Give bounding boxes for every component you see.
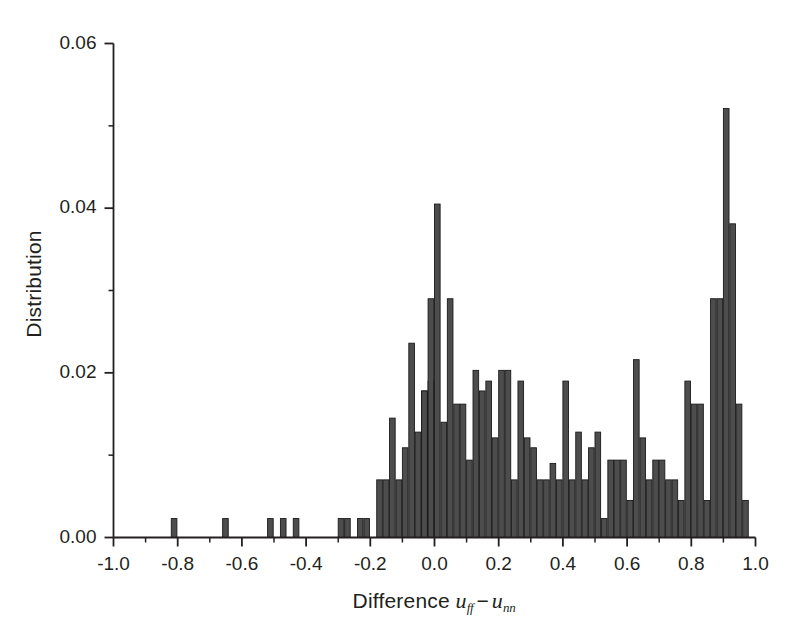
histogram-bar [396, 480, 402, 538]
x-axis-tick-label: 0.4 [528, 553, 598, 575]
histogram-bar [601, 519, 607, 538]
histogram-bar [428, 299, 434, 538]
histogram-bar [415, 432, 421, 537]
y-axis-tick-label: 0.04 [27, 196, 97, 218]
histogram-bar [512, 480, 518, 538]
histogram-bar [223, 519, 229, 538]
histogram-bar [422, 391, 428, 538]
histogram-bar [717, 299, 723, 538]
histogram-bar [492, 438, 498, 538]
histogram-bar [473, 370, 479, 537]
histogram-bar [441, 422, 447, 537]
histogram-bar [704, 500, 710, 537]
histogram-bar [685, 381, 691, 537]
histogram-bar [357, 519, 363, 538]
histogram-bar [711, 299, 717, 538]
histogram-bar [595, 432, 601, 537]
histogram-bar [743, 500, 749, 537]
histogram-bar [518, 381, 524, 537]
histogram-bars [171, 109, 748, 538]
histogram-bar [447, 299, 453, 538]
histogram-bar [544, 480, 550, 538]
plot-canvas [0, 0, 798, 644]
x-axis-tick-label: 0.0 [400, 553, 470, 575]
histogram-bar [338, 519, 344, 538]
histogram-bar [589, 448, 595, 538]
histogram-bar [467, 460, 473, 537]
histogram-bar [563, 381, 569, 537]
histogram-bar [460, 404, 466, 537]
histogram-bar [383, 480, 389, 538]
x-axis-tick-label: 1.0 [721, 553, 791, 575]
histogram-bar [608, 460, 614, 537]
histogram-bar [582, 480, 588, 538]
histogram-bar [364, 519, 370, 538]
histogram-bar [576, 432, 582, 537]
histogram-figure: Distribution Difference uff−unn 0.000.02… [0, 0, 798, 644]
histogram-bar [505, 370, 511, 537]
histogram-bar [524, 438, 530, 538]
histogram-bar [345, 519, 351, 538]
histogram-bar [499, 370, 505, 537]
histogram-bar [402, 448, 408, 538]
y-axis-tick-label: 0.06 [27, 32, 97, 54]
histogram-bar [390, 418, 396, 537]
histogram-bar [634, 360, 640, 538]
histogram-bar [550, 463, 556, 537]
histogram-bar [627, 500, 633, 537]
histogram-bar [435, 204, 441, 537]
histogram-bar [479, 391, 485, 538]
x-axis-tick-label: 0.8 [656, 553, 726, 575]
histogram-bar [377, 480, 383, 538]
histogram-bar [614, 460, 620, 537]
histogram-bar [659, 460, 665, 537]
histogram-bar [454, 404, 460, 537]
x-axis-tick-label: -0.8 [143, 553, 213, 575]
histogram-bar [531, 448, 537, 538]
x-axis-tick-label: -0.4 [271, 553, 341, 575]
histogram-bar [698, 404, 704, 537]
x-axis-tick-label: -0.2 [335, 553, 405, 575]
histogram-bar [678, 500, 684, 537]
histogram-bar [723, 109, 729, 538]
histogram-bar [640, 438, 646, 538]
histogram-bar [486, 381, 492, 537]
histogram-bar [730, 224, 736, 538]
x-axis-tick-label: -1.0 [79, 553, 149, 575]
histogram-bar [653, 460, 659, 537]
y-axis-tick-label: 0.02 [27, 361, 97, 383]
x-axis-tick-label: 0.2 [464, 553, 534, 575]
histogram-bar [537, 480, 543, 538]
x-axis-tick-label: -0.6 [207, 553, 277, 575]
histogram-bar [666, 480, 672, 538]
histogram-bar [268, 519, 274, 538]
histogram-bar [736, 404, 742, 537]
x-axis-tick-label: 0.6 [592, 553, 662, 575]
histogram-bar [691, 404, 697, 537]
histogram-bar [672, 480, 678, 538]
histogram-bar [280, 519, 286, 538]
histogram-bar [569, 480, 575, 538]
histogram-bar [621, 460, 627, 537]
y-axis-tick-label: 0.00 [27, 526, 97, 548]
histogram-bar [409, 343, 415, 537]
histogram-bar [646, 480, 652, 538]
histogram-bar [171, 519, 177, 538]
histogram-bar [293, 519, 299, 538]
histogram-bar [556, 480, 562, 538]
